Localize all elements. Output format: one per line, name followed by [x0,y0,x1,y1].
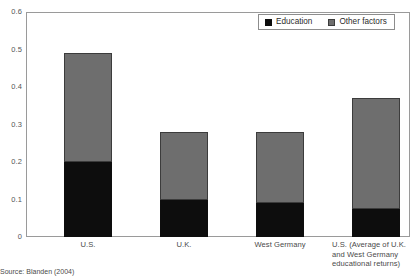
x-tick-label-uk: U.K. [136,240,232,250]
bar-segment-education [352,209,400,237]
legend: Education Other factors [258,14,395,30]
education-swatch-icon [265,19,272,26]
y-tick-label-6: 0.6 [11,8,22,16]
legend-label-education: Education [276,18,312,26]
y-axis: 0 0.1 0.2 0.3 0.4 0.5 0.6 [0,0,26,249]
legend-label-other-factors: Other factors [339,18,386,26]
y-tick-label-2: 0.2 [11,158,22,166]
x-tick-label-us: U.S. [40,240,136,250]
source-note: Source: Blanden (2004) [0,267,74,276]
y-tick-label-1: 0.1 [11,196,22,204]
x-tick-label-west-germany: West Germany [232,240,328,250]
x-tick-label-us-average: U.S. (Average of U.K. and West Germany e… [332,240,416,269]
bar-segment-education [64,162,112,237]
x-axis: U.S. U.K. West Germany U.S. (Average of … [26,240,410,277]
figure-container: 0 0.1 0.2 0.3 0.4 0.5 0.6 U.S. U.K. [0,0,420,277]
bar-segment-education [160,200,208,238]
y-tick-label-0: 0 [18,233,22,241]
bar-segment-education [256,203,304,237]
y-tick-label-4: 0.4 [11,83,22,91]
y-tick-label-5: 0.5 [11,46,22,54]
bar-segment-other-factors [64,53,112,162]
other-factors-swatch-icon [328,19,335,26]
bar-segment-other-factors [160,132,208,200]
legend-entry-education[interactable]: Education [265,18,312,26]
bars-layer [26,12,410,237]
bar-segment-other-factors [256,132,304,203]
legend-entry-other-factors[interactable]: Other factors [328,18,386,26]
y-tick-label-3: 0.3 [11,121,22,129]
bar-segment-other-factors [352,98,400,209]
